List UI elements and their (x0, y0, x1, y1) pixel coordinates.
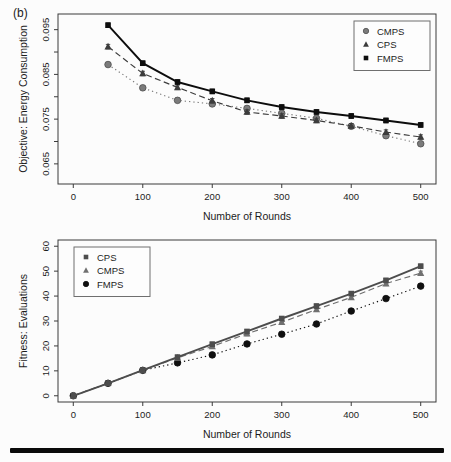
x-tick-label: 0 (71, 191, 76, 202)
y-tick-label: 0.075 (40, 107, 51, 131)
y-tick-label: 50 (40, 266, 51, 277)
legend: CMPSCPSFMPS (354, 21, 430, 71)
figure: (b) 01002003004005000.0650.0750.0850.095… (0, 0, 451, 462)
y-tick-label: 60 (40, 241, 51, 252)
x-tick-label: 100 (135, 191, 151, 202)
y-axis-label: Fitness: Evaluations (17, 274, 29, 368)
y-tick-label: 10 (40, 366, 51, 377)
x-axis-label: Number of Rounds (203, 210, 291, 222)
legend-item-label: FMPS (377, 53, 403, 64)
y-axis-label: Objective: Energy Consumption (17, 25, 29, 173)
top-chart: 01002003004005000.0650.0750.0850.095Numb… (14, 4, 444, 230)
x-tick-label: 300 (274, 409, 290, 420)
bottom-chart: 01002003004005000102030405060Number of R… (14, 230, 444, 448)
y-tick-label: 0 (40, 393, 51, 398)
x-tick-label: 200 (204, 191, 220, 202)
series-fmps (70, 283, 424, 399)
legend: CPSCMPSFMPS (74, 247, 150, 297)
x-tick-label: 400 (343, 191, 359, 202)
x-axis-label: Number of Rounds (203, 428, 291, 440)
y-tick-label: 0.095 (40, 18, 51, 42)
y-tick-label: 40 (40, 291, 51, 302)
y-tick-label: 30 (40, 316, 51, 327)
x-tick-label: 300 (274, 191, 290, 202)
y-tick-label: 0.065 (40, 152, 51, 176)
legend-item-label: CPS (377, 39, 397, 50)
x-tick-label: 0 (71, 409, 76, 420)
y-tick-label: 0.085 (40, 63, 51, 87)
legend-item-label: CPS (97, 252, 117, 263)
legend-item-label: CMPS (377, 26, 404, 37)
x-tick-label: 500 (413, 191, 429, 202)
legend-item-label: CMPS (97, 265, 124, 276)
y-tick-label: 20 (40, 341, 51, 352)
bottom-rule (10, 448, 444, 453)
legend-item-label: FMPS (97, 279, 123, 290)
x-tick-label: 200 (204, 409, 220, 420)
x-tick-label: 400 (343, 409, 359, 420)
x-tick-label: 100 (135, 409, 151, 420)
x-tick-label: 500 (413, 409, 429, 420)
